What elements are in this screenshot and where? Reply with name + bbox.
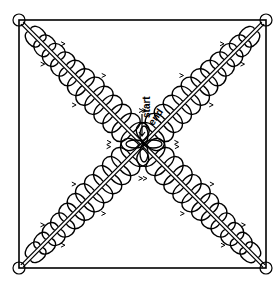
feather-arms xyxy=(21,22,265,267)
feather-loop xyxy=(30,26,46,41)
feather-loop xyxy=(25,31,40,47)
spine-line xyxy=(21,22,262,265)
feather-loop xyxy=(239,26,255,41)
direction-arrow-icon xyxy=(139,176,143,180)
feather-loop xyxy=(34,232,49,248)
feather-loop xyxy=(34,41,50,57)
direction-arrow-icon xyxy=(72,182,76,186)
direction-arrow-icon xyxy=(179,73,183,77)
feather-loop xyxy=(39,239,55,255)
direction-arrow-icon xyxy=(180,212,184,216)
direction-arrow-icon xyxy=(209,103,213,107)
feather-loop xyxy=(25,242,40,258)
feather-loop xyxy=(240,248,256,263)
direction-arrow-icon xyxy=(107,140,111,144)
direction-arrow-icon xyxy=(174,140,178,144)
feather-loop xyxy=(245,32,260,48)
feather-loop xyxy=(30,248,46,263)
direction-arrow-icon xyxy=(102,73,106,77)
feather-loop xyxy=(237,232,253,248)
direction-arrow-icon xyxy=(102,212,106,216)
direction-arrow-icon xyxy=(175,145,179,149)
direction-arrow-icon xyxy=(107,145,111,149)
feather-loop xyxy=(39,35,55,51)
feather-loop xyxy=(229,35,245,51)
feather-loop xyxy=(230,239,246,255)
direction-arrow-icon xyxy=(72,103,76,107)
direction-arrow-icon xyxy=(210,182,214,186)
quilting-diagram xyxy=(0,0,278,284)
feather-loop xyxy=(236,41,251,57)
feather-loop xyxy=(246,242,261,258)
